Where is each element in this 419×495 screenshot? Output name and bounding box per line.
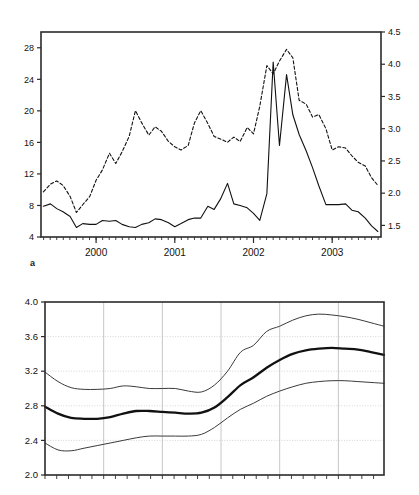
panel-b-tickmarks <box>41 302 374 479</box>
panel-b-axes <box>45 302 384 475</box>
panel-a-left-ticklabel: 4 <box>29 232 34 242</box>
panel-a-right-ticklabel: 2.5 <box>388 156 401 166</box>
panel-a-left-ticklabel: 8 <box>29 201 34 211</box>
panel-a-x-ticklabel: 2002 <box>242 247 265 258</box>
panel-a-plot-frame <box>41 32 381 237</box>
panel-a-right-ticklabel: 3.0 <box>388 124 401 134</box>
panel-a-dashed-series <box>43 49 377 212</box>
panel-a-right-ticklabel: 2.0 <box>388 188 401 198</box>
panel-a-right-ticklabel: 4.5 <box>388 27 401 37</box>
panel-a-left-ticklabel: 20 <box>24 106 34 116</box>
panel-a-ticklabels: 4812162024281.52.02.53.03.54.04.52000200… <box>24 27 401 258</box>
panel-a-x-ticklabel: 2003 <box>321 247 344 258</box>
panel-b-plot-frame <box>45 302 384 475</box>
panel-b-gridlines <box>45 302 384 475</box>
panel-a-x-ticklabel: 2001 <box>164 247 187 258</box>
panel-a-left-ticklabel: 12 <box>24 169 34 179</box>
panel-b-y-ticklabel: 4.0 <box>25 296 38 307</box>
panel-a-series <box>43 49 377 231</box>
panel-a-tickmarks <box>37 32 385 243</box>
panel-a-left-ticklabel: 16 <box>24 138 34 148</box>
panel-a-left-ticklabel: 28 <box>24 43 34 53</box>
panel-b-y-ticklabel: 3.2 <box>25 365 38 376</box>
panel-a-solid-series <box>43 62 377 232</box>
panel-b-ticklabels: 2.02.42.83.23.64.0 <box>25 296 38 480</box>
panel-b-series <box>45 314 384 451</box>
panel-a-right-ticklabel: 4.0 <box>388 59 401 69</box>
figure-container: 4812162024281.52.02.53.03.54.04.52000200… <box>0 0 419 495</box>
panel-a-label: a <box>30 258 35 268</box>
panel-b-y-ticklabel: 2.4 <box>25 435 38 446</box>
panel-a-axes <box>41 32 381 237</box>
panel-a-x-ticklabel: 2000 <box>85 247 108 258</box>
chart-panel-a: 4812162024281.52.02.53.03.54.04.52000200… <box>0 0 419 258</box>
panel-b-central-line <box>45 348 384 419</box>
panel-b-y-ticklabel: 3.6 <box>25 331 38 342</box>
panel-b-y-ticklabel: 2.8 <box>25 400 38 411</box>
panel-a-right-ticklabel: 1.5 <box>388 221 401 231</box>
panel-b-y-ticklabel: 2.0 <box>25 469 38 480</box>
panel-a-left-ticklabel: 24 <box>24 75 34 85</box>
panel-a-right-ticklabel: 3.5 <box>388 92 401 102</box>
chart-panel-b: 2.02.42.83.23.64.0 <box>0 275 419 495</box>
